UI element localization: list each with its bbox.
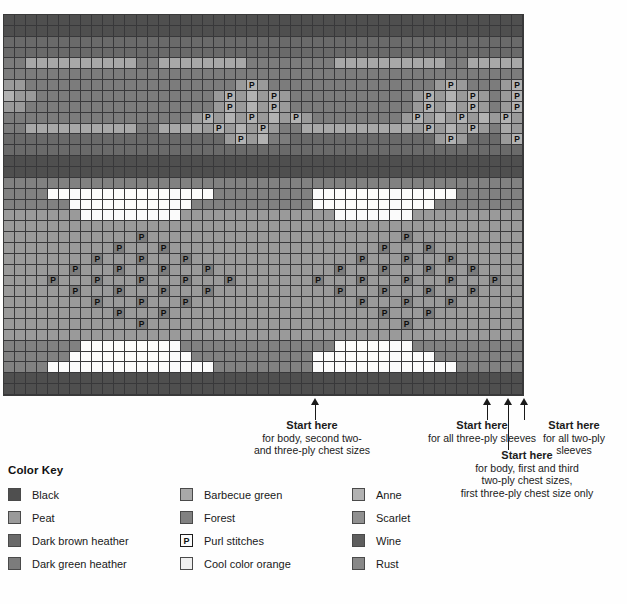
stitch-cell [302,286,313,297]
stitch-cell [125,69,136,80]
stitch-cell [70,319,81,330]
stitch-cell [26,232,37,243]
purl-stitch-cell [424,286,435,297]
stitch-cell [346,308,357,319]
stitch-cell [346,373,357,384]
stitch-cell [37,91,48,102]
stitch-cell [424,37,435,48]
stitch-cell [291,69,302,80]
stitch-cell [103,265,114,276]
stitch-cell [324,210,335,221]
stitch-cell [114,373,125,384]
stitch-cell [402,80,413,91]
stitch-cell [92,26,103,37]
stitch-cell [103,69,114,80]
stitch-cell [114,134,125,145]
stitch-cell [148,373,159,384]
stitch-cell [413,48,424,59]
stitch-cell [148,91,159,102]
stitch-cell [357,26,368,37]
stitch-chart[interactable] [3,14,524,396]
stitch-cell [280,254,291,265]
stitch-cell [70,80,81,91]
stitch-cell [479,91,490,102]
stitch-cell [170,124,181,135]
stitch-cell [512,232,523,243]
stitch-cell [368,254,379,265]
stitch-cell [291,189,302,200]
stitch-cell [92,69,103,80]
stitch-cell [103,232,114,243]
stitch-cell [424,26,435,37]
stitch-cell [490,308,501,319]
stitch-cell [324,254,335,265]
purl-stitch-cell [402,254,413,265]
stitch-cell [81,113,92,124]
stitch-cell [379,91,390,102]
stitch-cell [346,265,357,276]
stitch-cell [81,167,92,178]
stitch-cell [501,276,512,287]
stitch-cell [159,124,170,135]
stitch-cell [59,178,70,189]
stitch-cell [479,352,490,363]
stitch-cell [125,308,136,319]
stitch-cell [48,319,59,330]
stitch-cell [225,232,236,243]
stitch-cell [457,91,468,102]
stitch-cell [170,200,181,211]
stitch-cell [313,69,324,80]
stitch-cell [313,319,324,330]
stitch-cell [236,58,247,69]
stitch-cell [291,37,302,48]
start-here-detail-line: and three-ply chest sizes [238,444,386,457]
stitch-cell [181,189,192,200]
stitch-cell [435,58,446,69]
stitch-cell [291,286,302,297]
stitch-cell [92,373,103,384]
stitch-cell [225,156,236,167]
stitch-cell [357,156,368,167]
stitch-cell [125,221,136,232]
stitch-cell [37,243,48,254]
stitch-cell [181,200,192,211]
stitch-cell [59,286,70,297]
stitch-cell [203,26,214,37]
stitch-cell [59,156,70,167]
stitch-cell [37,113,48,124]
stitch-cell [37,330,48,341]
stitch-cell [346,352,357,363]
stitch-cell [92,200,103,211]
stitch-cell [26,102,37,113]
stitch-cell [70,221,81,232]
stitch-cell [468,297,479,308]
stitch-cell [501,210,512,221]
stitch-cell [15,352,26,363]
stitch-cell [302,373,313,384]
color-key-entry: Forest [180,506,352,529]
stitch-cell [413,341,424,352]
stitch-cell [468,134,479,145]
stitch-cell [324,319,335,330]
stitch-cell [280,124,291,135]
stitch-cell [479,80,490,91]
stitch-cell [170,232,181,243]
stitch-cell [512,319,523,330]
stitch-cell [148,80,159,91]
stitch-cell [258,58,269,69]
stitch-cell [335,373,346,384]
stitch-cell [324,113,335,124]
stitch-cell [501,384,512,395]
stitch-cell [413,189,424,200]
stitch-cell [247,254,258,265]
stitch-cell [92,134,103,145]
stitch-cell [269,37,280,48]
stitch-cell [159,48,170,59]
stitch-cell [15,308,26,319]
stitch-cell [390,384,401,395]
stitch-cell [368,200,379,211]
stitch-cell [192,286,203,297]
stitch-cell [26,113,37,124]
purl-stitch-cell [48,276,59,287]
start-here-arrow-icon [504,398,513,450]
